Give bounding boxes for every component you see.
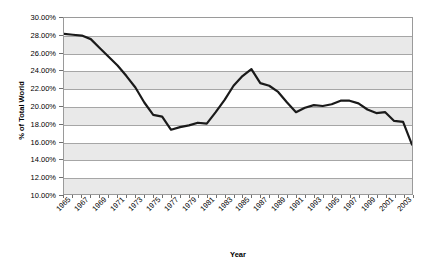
y-tick-label: 20.00% <box>31 102 56 111</box>
x-tick-mark <box>287 195 288 198</box>
x-tick-mark <box>117 195 118 198</box>
x-tick-mark <box>207 195 208 198</box>
x-tick-mark <box>171 195 172 198</box>
x-tick-mark <box>260 195 261 198</box>
x-tick-mark <box>413 195 414 198</box>
y-tick-label: 24.00% <box>31 66 56 75</box>
x-tick-mark <box>216 195 217 198</box>
x-tick-mark <box>386 195 387 198</box>
x-tick-mark <box>144 195 145 198</box>
y-tick-label: 12.00% <box>31 173 56 182</box>
data-series-line <box>64 18 412 194</box>
y-tick-label: 30.00% <box>31 13 56 22</box>
x-tick-mark <box>305 195 306 198</box>
x-tick-mark <box>234 195 235 198</box>
x-tick-mark <box>162 195 163 198</box>
y-tick-label: 26.00% <box>31 48 56 57</box>
x-tick-mark <box>99 195 100 198</box>
x-tick-mark <box>278 195 279 198</box>
x-axis-title: Year <box>63 250 413 259</box>
y-tick-label: 28.00% <box>31 30 56 39</box>
y-tick-label: 22.00% <box>31 84 56 93</box>
x-tick-mark <box>198 195 199 198</box>
x-tick-mark <box>359 195 360 198</box>
x-tick-mark <box>225 195 226 198</box>
x-tick-mark <box>108 195 109 198</box>
x-tick-mark <box>332 195 333 198</box>
y-tick-label: 18.00% <box>31 119 56 128</box>
x-tick-mark <box>90 195 91 198</box>
x-tick-mark <box>251 195 252 198</box>
x-tick-mark <box>269 195 270 198</box>
x-tick-mark <box>368 195 369 198</box>
x-tick-mark <box>135 195 136 198</box>
x-tick-mark <box>350 195 351 198</box>
x-tick-mark <box>189 195 190 198</box>
x-tick-mark <box>395 195 396 198</box>
x-tick-mark <box>323 195 324 198</box>
x-tick-mark <box>63 195 64 198</box>
x-tick-mark <box>153 195 154 198</box>
x-tick-mark <box>126 195 127 198</box>
x-axis-tick-labels: 1965196719691971197319751977197919811983… <box>0 195 437 240</box>
x-tick-mark <box>377 195 378 198</box>
line-chart: % of Total World 30.00%28.00%26.00%24.00… <box>0 0 437 270</box>
x-tick-mark <box>341 195 342 198</box>
x-tick-mark <box>296 195 297 198</box>
x-tick-mark <box>180 195 181 198</box>
x-tick-mark <box>314 195 315 198</box>
plot-area <box>63 17 413 195</box>
x-tick-mark <box>81 195 82 198</box>
x-tick-mark <box>242 195 243 198</box>
x-tick-mark <box>404 195 405 198</box>
y-tick-label: 14.00% <box>31 155 56 164</box>
y-tick-label: 16.00% <box>31 137 56 146</box>
x-tick-mark <box>72 195 73 198</box>
